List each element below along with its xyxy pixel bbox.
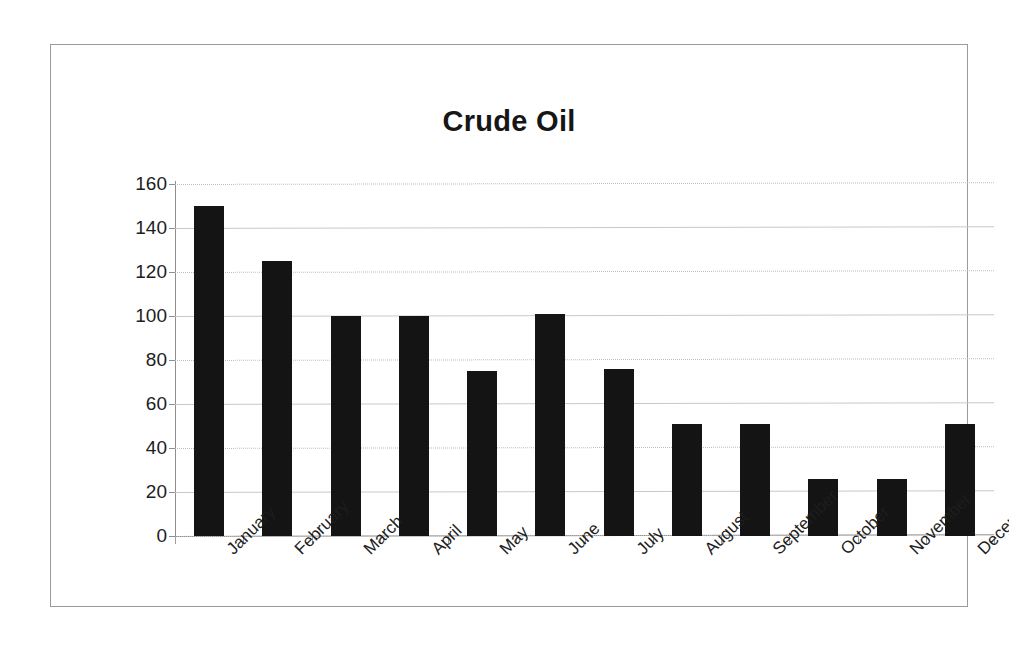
gridline-120 <box>175 270 994 273</box>
gridline-80 <box>175 358 994 361</box>
x-tick-label-february: February <box>291 545 305 559</box>
x-tick-label-july: July <box>633 545 647 559</box>
y-tick-label-80: 80 <box>97 350 167 369</box>
x-tick-label-october: October <box>837 545 851 559</box>
x-tick-label-march: March <box>360 545 374 559</box>
x-tick-label-june: June <box>564 545 578 559</box>
y-axis-tick-labels: 160140120100806040200 <box>95 184 167 536</box>
y-tick-mark-60 <box>169 404 175 405</box>
x-tick-mark-0 <box>175 536 176 544</box>
bar-april <box>399 316 429 536</box>
gridline-60 <box>175 402 994 405</box>
y-tick-mark-80 <box>169 360 175 361</box>
x-tick-label-april: April <box>428 545 442 559</box>
y-tick-mark-20 <box>169 492 175 493</box>
gridline-100 <box>175 314 994 317</box>
y-tick-label-120: 120 <box>97 262 167 281</box>
y-tick-mark-100 <box>169 316 175 317</box>
y-tick-label-20: 20 <box>97 482 167 501</box>
plot-area <box>175 184 994 536</box>
bar-may <box>467 371 497 536</box>
bar-february <box>262 261 292 536</box>
y-tick-label-140: 140 <box>97 218 167 237</box>
x-tick-label-september: September <box>769 545 783 559</box>
chart-frame: Crude Oil 160140120100806040200 JanuaryF… <box>50 44 968 607</box>
gridline-140 <box>175 226 994 229</box>
bar-august <box>672 424 702 536</box>
y-tick-label-60: 60 <box>97 394 167 413</box>
bar-june <box>535 314 565 536</box>
gridline-40 <box>175 446 994 449</box>
x-tick-label-january: January <box>223 545 237 559</box>
x-tick-label-august: August <box>701 545 715 559</box>
x-tick-label-may: May <box>496 545 510 559</box>
y-tick-mark-160 <box>169 184 175 185</box>
bar-july <box>604 369 634 536</box>
x-tick-label-november: November <box>906 545 920 559</box>
x-axis-tick-labels: JanuaryFebruaryMarchAprilMayJuneJulyAugu… <box>175 545 994 645</box>
gridline-160 <box>175 182 994 185</box>
y-tick-label-0: 0 <box>97 526 167 545</box>
y-tick-mark-40 <box>169 448 175 449</box>
y-tick-label-160: 160 <box>97 174 167 193</box>
y-tick-mark-120 <box>169 272 175 273</box>
chart-title: Crude Oil <box>51 105 967 138</box>
bar-january <box>194 206 224 536</box>
y-tick-label-40: 40 <box>97 438 167 457</box>
gridline-20 <box>175 490 994 493</box>
y-tick-label-100: 100 <box>97 306 167 325</box>
x-tick-label-december: December <box>974 545 988 559</box>
y-tick-mark-140 <box>169 228 175 229</box>
